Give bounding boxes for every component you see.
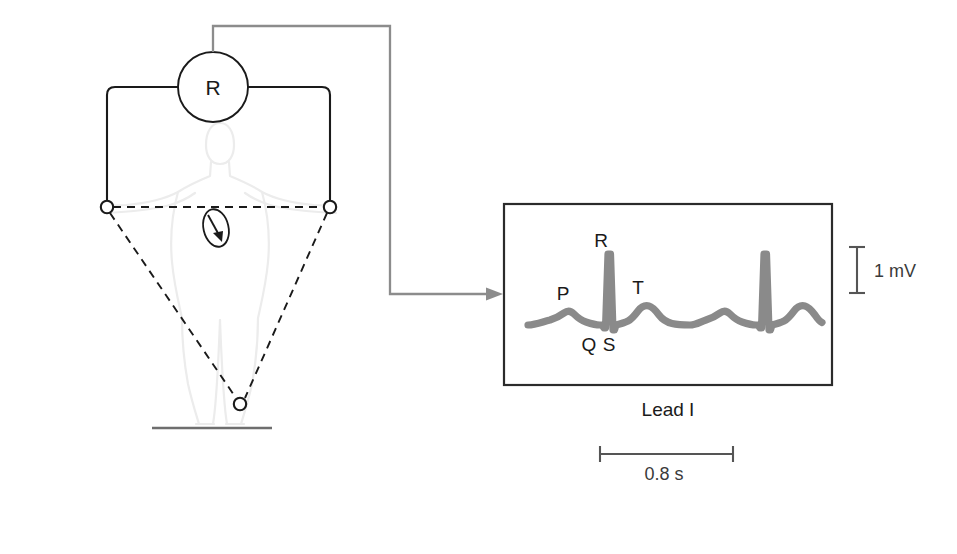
time-scale-label: 0.8 s	[644, 464, 683, 484]
signal-cable-arrowhead	[486, 288, 503, 301]
wave-label-r: R	[594, 230, 608, 251]
time-scale-bar: 0.8 s	[600, 446, 733, 484]
body-silhouette	[104, 123, 336, 424]
figure-canvas: R P R T Q S 1 mV Lead I	[0, 0, 957, 554]
signal-cable-path	[213, 26, 490, 294]
voltage-scale-label: 1 mV	[874, 261, 916, 281]
ecg-display-box	[504, 204, 832, 385]
electrode-left-arm	[324, 201, 336, 213]
ecg-einthoven-diagram: R P R T Q S 1 mV Lead I	[0, 0, 957, 554]
voltage-scale-bar: 1 mV	[849, 247, 916, 293]
wave-label-t: T	[632, 277, 644, 298]
wave-label-s: S	[603, 334, 616, 355]
heart-vector	[200, 207, 233, 250]
ecg-caption: Lead I	[642, 399, 695, 420]
lead-wire-left-arm	[248, 87, 330, 200]
wave-label-p: P	[557, 283, 570, 304]
triangle-side-right	[245, 213, 327, 398]
electrode-right-arm	[101, 201, 113, 213]
wave-label-q: Q	[582, 334, 597, 355]
signal-cable	[213, 26, 503, 301]
lead-wire-right-arm	[107, 87, 178, 200]
recorder-label: R	[205, 76, 220, 99]
electrode-leg	[234, 398, 246, 410]
recorder-unit: R	[178, 52, 248, 122]
